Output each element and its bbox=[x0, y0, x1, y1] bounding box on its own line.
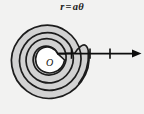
equation-rhs: aθ bbox=[73, 1, 84, 12]
polar-axis-arrowhead bbox=[132, 50, 142, 58]
equation-operator: = bbox=[65, 1, 73, 12]
origin-label: O bbox=[46, 57, 53, 68]
equation-lhs: r bbox=[60, 1, 64, 12]
spiral-diagram-canvas bbox=[0, 0, 144, 114]
spiral-figure: r=aθ O bbox=[0, 0, 144, 114]
equation-label: r=aθ bbox=[0, 1, 144, 13]
